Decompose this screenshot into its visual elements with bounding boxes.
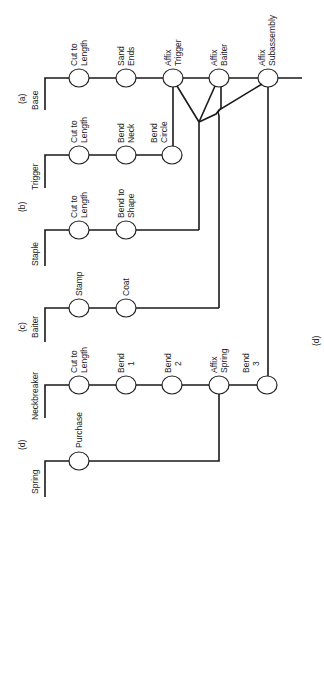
op-label-affix-baiter-2: Baiter <box>220 44 230 66</box>
node-base-sand-ends <box>116 69 136 87</box>
node-trigger-bend-circle <box>162 146 182 164</box>
baiter-to-affix-baiter <box>218 87 221 308</box>
part-label-staple: Staple <box>31 242 41 266</box>
node-affix-trigger <box>163 69 183 87</box>
op-label-trigger-cut-2: Length <box>80 117 90 143</box>
node-trigger-cut-to-length <box>69 146 89 164</box>
node-baiter-stamp <box>69 299 89 317</box>
op-label-bend3-2: 3 <box>252 361 262 366</box>
node-spring-purchase <box>69 452 89 470</box>
row-trigger <box>45 146 182 188</box>
part-label-neckbreaker: Neckbreaker <box>31 372 41 420</box>
op-label-neck-cut-2: Length <box>80 347 90 373</box>
node-base-cut-to-length <box>69 69 89 87</box>
op-label-coat: Coat <box>122 278 132 296</box>
part-label-baiter: Baiter <box>31 316 41 338</box>
row-spring <box>45 394 219 497</box>
process-flow-lines <box>0 0 324 684</box>
node-affix-baiter <box>209 69 229 87</box>
op-label-affix-trigger-2: Trigger <box>174 39 184 66</box>
baiter-tag: (c) <box>18 322 28 332</box>
part-label-base: Base <box>31 91 41 110</box>
node-affix-spring <box>209 376 229 394</box>
node-baiter-coat <box>116 299 136 317</box>
row-staple <box>45 221 199 266</box>
trigger-flow-line <box>45 155 163 188</box>
node-neck-cut-to-length <box>69 376 89 394</box>
node-staple-cut-to-length <box>69 221 89 239</box>
process-diagram: (a) Base Cut to Length Sand Ends Affix T… <box>0 0 324 684</box>
op-label-bend1-2: 1 <box>127 361 137 366</box>
op-label-bend-neck-2: Neck <box>127 124 137 143</box>
merge-from-affix-baiter <box>199 86 215 122</box>
op-label-bend2-2: 2 <box>174 361 184 366</box>
op-label-base-sand-2: Ends <box>127 47 137 66</box>
op-label-bend-circle-2: Circle <box>160 121 170 143</box>
row-baiter <box>45 299 219 342</box>
spring-tag: (d) <box>18 440 28 450</box>
part-label-spring: Spring <box>31 469 41 494</box>
part-label-trigger: Trigger <box>31 163 41 190</box>
op-label-affix-spring-2: Spring <box>220 348 230 373</box>
figure-label: (d) <box>312 336 322 346</box>
merge-from-affix-subassembly <box>199 84 262 122</box>
op-label-purchase: Purchase <box>75 412 85 448</box>
node-staple-bend-to-shape <box>116 221 136 239</box>
node-neck-bend-2 <box>162 376 182 394</box>
node-neck-bend-3 <box>257 376 277 394</box>
node-trigger-bend-neck <box>116 146 136 164</box>
staple-tag: (b) <box>18 202 28 212</box>
merge-from-affix-trigger <box>177 86 199 122</box>
op-label-affix-sub-2: Subassembly <box>268 15 278 66</box>
base-tag: (a) <box>18 94 28 104</box>
op-label-base-cut-2: Length <box>80 40 90 66</box>
node-neck-bend-1 <box>116 376 136 394</box>
op-label-staple-cut-2: Length <box>80 192 90 218</box>
op-label-bend-shape-2: Shape <box>127 193 137 218</box>
spring-flow-line <box>45 394 219 497</box>
op-label-stamp: Stamp <box>75 271 85 296</box>
